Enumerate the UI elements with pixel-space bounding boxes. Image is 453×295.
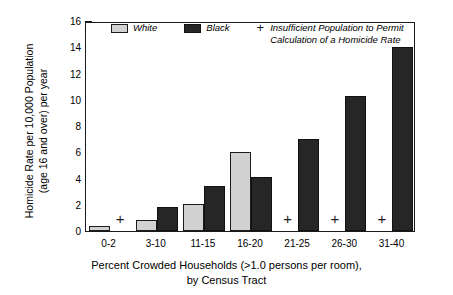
y-axis-tick-text: 4 xyxy=(59,175,81,185)
bar-white-0-2 xyxy=(89,226,110,231)
y-axis-tick-text: 6 xyxy=(59,148,81,158)
bars-layer: ++++ xyxy=(86,23,414,231)
y-axis-tick-text: 16 xyxy=(59,17,81,27)
y-axis-tick-text: 8 xyxy=(59,122,81,132)
y-axis-tick-text: 14 xyxy=(59,43,81,53)
bar-white-16-20 xyxy=(230,152,251,231)
chart-figure: Homicide Rate per 10,000 Population (age… xyxy=(0,0,453,295)
bar-black-11-15 xyxy=(204,186,225,231)
bar-black-16-20 xyxy=(251,177,272,231)
legend-note-insufficient: Insufficient Population to Permit Calcul… xyxy=(270,22,404,45)
legend-item-white: White xyxy=(111,22,157,34)
bar-black-3-10 xyxy=(157,207,178,231)
plus-marker-icon: + xyxy=(257,22,265,33)
bar-white-3-10 xyxy=(136,220,157,231)
y-axis-title: Homicide Rate per 10,000 Population (age… xyxy=(22,21,50,241)
insufficient-data-plus-icon: + xyxy=(283,213,292,225)
bar-black-21-25 xyxy=(298,139,319,231)
y-axis-tick-text: 0 xyxy=(59,227,81,237)
bar-white-11-15 xyxy=(183,204,204,231)
legend-item-black: Black xyxy=(184,22,229,34)
bar-black-31-40 xyxy=(392,47,413,231)
bar-black-26-30 xyxy=(345,96,366,231)
y-axis-tick-text: 10 xyxy=(59,96,81,106)
legend-item-insufficient: + Insufficient Population to Permit Calc… xyxy=(257,22,404,45)
chart-legend: White Black + Insufficient Population to… xyxy=(111,22,404,45)
y-axis-tick-text: 12 xyxy=(59,70,81,80)
insufficient-data-plus-icon: + xyxy=(330,213,339,225)
insufficient-data-plus-icon: + xyxy=(116,213,125,225)
x-axis-title: Percent Crowded Households (>1.0 persons… xyxy=(0,258,453,287)
legend-swatch-black-icon xyxy=(184,24,201,33)
y-axis-tick-text: 2 xyxy=(59,201,81,211)
x-axis-tick-label: 31-40 xyxy=(361,238,421,249)
legend-label-white: White xyxy=(133,22,157,34)
insufficient-data-plus-icon: + xyxy=(378,213,387,225)
legend-label-black: Black xyxy=(206,22,229,34)
plot-area: ++++ White Black + Insufficient Populati… xyxy=(85,22,415,232)
legend-swatch-white-icon xyxy=(111,24,128,33)
